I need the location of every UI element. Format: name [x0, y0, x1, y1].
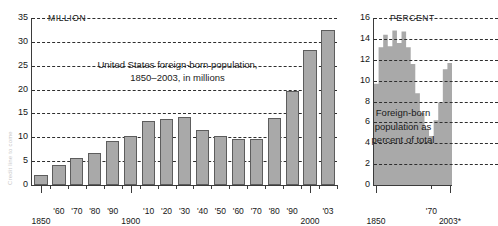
left-x-tick-label: '50 [215, 207, 226, 216]
left-x-tick [131, 185, 132, 193]
left-x-tick [86, 185, 87, 189]
right-chart-panel: PERCENT 0246810121416 1850'702003* Forei… [345, 0, 476, 223]
left-x-tick-label: '80 [269, 207, 280, 216]
left-y-tick-label: 30 [18, 37, 28, 46]
left-bar [196, 130, 209, 185]
left-x-tick [211, 185, 212, 189]
left-chart-panel: MILLION United States foreign-born popul… [0, 0, 345, 223]
left-x-tick [41, 185, 42, 193]
right-y-tick-label: 12 [360, 55, 370, 64]
right-y-tick-label: 2 [365, 159, 370, 168]
left-x-tick [247, 185, 248, 189]
right-chart-annotation: Foreign-born population as percent of to… [351, 106, 455, 147]
left-y-tick-label: 15 [18, 109, 28, 118]
left-x-tick [158, 185, 159, 189]
left-y-tick-label: 0 [23, 180, 28, 189]
left-x-tick [193, 185, 194, 189]
left-gridline [32, 42, 337, 43]
left-x-tick [265, 185, 266, 189]
left-x-tick-label: '60 [233, 207, 244, 216]
right-x-tick-label: '70 [426, 207, 437, 216]
left-x-tick-label: '10 [143, 207, 154, 216]
right-x-tick [431, 185, 432, 189]
left-x-tick [50, 185, 51, 189]
right-x-tick [376, 185, 377, 193]
left-gridline [32, 18, 337, 19]
left-bar [106, 141, 119, 185]
left-x-tick-label: 1900 [121, 217, 140, 226]
left-x-tick [104, 185, 105, 189]
right-y-tick-label: 14 [360, 34, 370, 43]
left-x-tick-label: '90 [287, 207, 298, 216]
right-annotation-line2: population as [375, 121, 432, 132]
left-x-tick [176, 185, 177, 189]
right-gridline [374, 164, 498, 165]
right-x-tick [450, 185, 451, 193]
left-bar [142, 121, 155, 185]
right-x-tick-label: 2003* [439, 217, 461, 226]
left-x-tick [310, 185, 311, 193]
left-bar [232, 139, 245, 185]
left-plot-area: 05101520253035 1850'60'70'80'901900'10'2… [31, 18, 337, 186]
left-x-tick-label: 1850 [32, 217, 51, 226]
right-y-tick-label: 16 [360, 13, 370, 22]
right-gridline [374, 81, 498, 82]
left-y-tick-label: 35 [18, 13, 28, 22]
left-y-tick-label: 5 [23, 156, 28, 165]
left-bar [70, 158, 83, 185]
left-y-tick-label: 10 [18, 133, 28, 142]
left-x-tick-label: '70 [251, 207, 262, 216]
right-y-tick-label: 0 [365, 180, 370, 189]
left-y-tick-label: 20 [18, 85, 28, 94]
left-bar [321, 30, 334, 185]
left-bar [268, 118, 281, 185]
left-x-tick-label: '40 [197, 207, 208, 216]
left-bar [286, 91, 299, 185]
left-x-tick [301, 185, 302, 189]
left-x-tick [229, 185, 230, 189]
left-bar [178, 117, 191, 185]
left-x-tick-label: '03 [322, 207, 333, 216]
left-bar [124, 136, 137, 185]
left-x-tick-label: '80 [89, 207, 100, 216]
left-x-tick [337, 185, 338, 189]
left-bar [34, 175, 47, 185]
left-x-tick [319, 185, 320, 189]
left-x-tick [68, 185, 69, 189]
left-x-tick-label: '20 [161, 207, 172, 216]
right-gridline [374, 18, 498, 19]
left-x-tick-label: '90 [107, 207, 118, 216]
left-bar [303, 50, 316, 186]
right-y-tick-label: 10 [360, 76, 370, 85]
left-x-tick-label: '60 [53, 207, 64, 216]
left-x-tick-label: '30 [179, 207, 190, 216]
left-y-tick-label: 25 [18, 61, 28, 70]
right-gridline [374, 60, 498, 61]
left-bar [214, 136, 227, 185]
right-y-tick-label: 8 [365, 97, 370, 106]
left-x-tick [140, 185, 141, 189]
right-annotation-line1: Foreign-born [376, 107, 430, 118]
left-bar [160, 119, 173, 185]
left-bar [88, 153, 101, 185]
left-bar [250, 139, 263, 185]
left-x-tick-label: '70 [71, 207, 82, 216]
left-x-tick-label: 2000 [301, 217, 320, 226]
right-gridline [374, 39, 498, 40]
left-bar [52, 165, 65, 185]
right-x-tick-label: 1850 [367, 217, 386, 226]
right-gridline [374, 102, 498, 103]
right-annotation-line3: percent of total [372, 134, 435, 145]
left-x-tick [283, 185, 284, 189]
left-gridline [32, 66, 337, 67]
left-x-tick [122, 185, 123, 189]
right-plot-area: 0246810121416 1850'702003* [373, 18, 452, 186]
